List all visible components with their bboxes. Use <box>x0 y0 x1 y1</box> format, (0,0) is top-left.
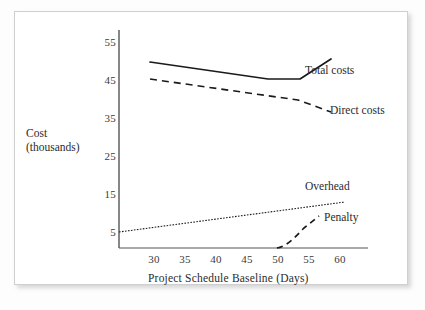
y-axis-title-line1: Cost <box>26 126 106 140</box>
series-label-overhead: Overhead <box>305 180 350 192</box>
y-tick-label: 15 <box>94 188 116 200</box>
y-axis-title: Cost (thousands) <box>26 126 106 154</box>
y-tick-label: 35 <box>94 112 116 124</box>
y-tick-label: 45 <box>94 74 116 86</box>
x-tick-label: 30 <box>142 253 166 265</box>
x-tick-label: 35 <box>173 253 197 265</box>
x-tick-label: 50 <box>266 253 290 265</box>
x-tick-label: 60 <box>328 253 352 265</box>
x-tick-label: 40 <box>204 253 228 265</box>
x-axis-title: Project Schedule Baseline (Days) <box>148 272 309 284</box>
y-tick-label: 5 <box>94 226 116 238</box>
x-tick-label: 45 <box>235 253 259 265</box>
y-axis-title-line2: (thousands) <box>26 140 106 154</box>
series-label-penalty: Penalty <box>324 211 359 223</box>
y-tick-label: 55 <box>94 36 116 48</box>
series-label-direct-costs: Direct costs <box>330 104 385 116</box>
x-tick-label: 55 <box>297 253 321 265</box>
figure-root: 55 45 35 25 15 5 30 35 40 45 50 55 60 Co… <box>0 0 425 310</box>
series-label-total-costs: Total costs <box>305 64 354 76</box>
